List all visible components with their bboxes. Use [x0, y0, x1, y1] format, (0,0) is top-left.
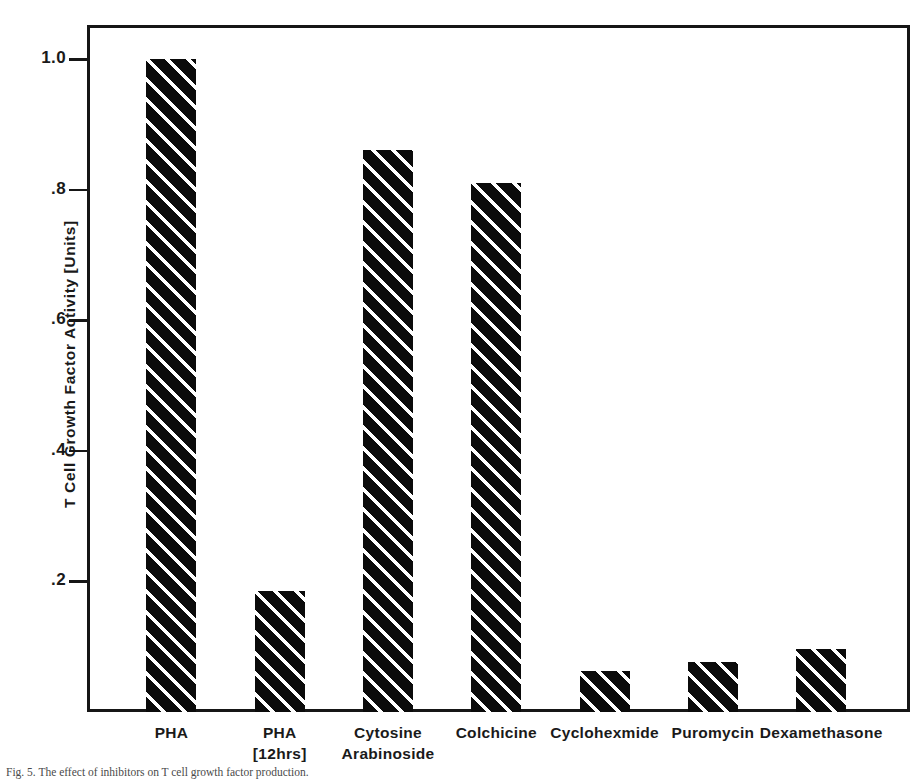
figure-bar-chart: T Cell Growth Factor Activity [Units] .2… [0, 0, 918, 779]
y-axis-tick-mark [69, 319, 87, 322]
y-axis-tick-mark [69, 189, 87, 192]
y-axis-tick-mark [69, 450, 87, 453]
y-axis-tick-label: .6 [0, 309, 66, 329]
x-axis-label-line1: Dexamethasone [760, 724, 883, 741]
y-axis-tick-label: .2 [0, 570, 66, 590]
y-axis-tick-label: .8 [0, 179, 66, 199]
x-axis-label-line2: Arabinoside [303, 743, 473, 764]
figure-caption: Fig. 5. The effect of inhibitors on T ce… [6, 766, 906, 779]
x-axis-label-line1: PHA [263, 724, 297, 741]
y-axis-tick-mark [69, 58, 87, 61]
x-axis-label-line1: PHA [155, 724, 189, 741]
y-axis-tick-label: .4 [0, 440, 66, 460]
x-axis-label: Dexamethasone [736, 722, 906, 743]
plot-area-frame [87, 25, 910, 712]
y-axis-tick-label: 1.0 [0, 48, 66, 68]
y-axis-tick-mark [69, 580, 87, 583]
